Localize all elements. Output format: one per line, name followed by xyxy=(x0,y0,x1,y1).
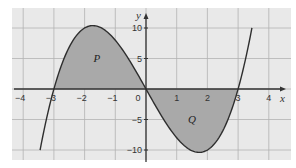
x-tick-label: −1 xyxy=(107,93,117,103)
cubic-graph: −4−3−2−101234−10−5510 x y PQ xyxy=(0,0,296,168)
x-tick-label: 3 xyxy=(236,93,241,103)
y-axis-label: y xyxy=(135,9,141,21)
y-tick-label: −5 xyxy=(132,115,142,125)
x-tick-label: 2 xyxy=(205,93,210,103)
region-label-p: P xyxy=(93,52,101,64)
y-tick-label: −10 xyxy=(127,145,142,155)
y-tick-label: 5 xyxy=(137,54,142,64)
x-tick-label: −3 xyxy=(46,93,56,103)
x-axis-label: x xyxy=(279,92,285,104)
x-tick-label: −2 xyxy=(76,93,86,103)
x-tick-label: 0 xyxy=(135,93,140,103)
y-tick-label: 10 xyxy=(132,23,142,33)
region-label-q: Q xyxy=(188,113,196,125)
x-tick-label: 1 xyxy=(174,93,179,103)
x-tick-label: 4 xyxy=(266,93,271,103)
x-tick-label: −4 xyxy=(15,93,25,103)
